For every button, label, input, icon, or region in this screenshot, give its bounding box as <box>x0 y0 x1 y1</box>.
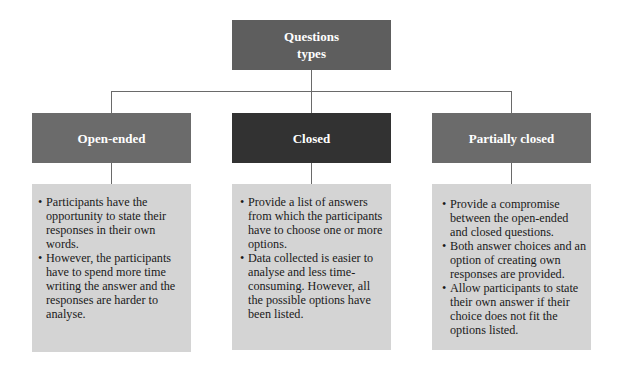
bullet-item: However, the participants have to spend … <box>38 251 187 321</box>
connector-right-down <box>511 91 512 113</box>
bullet-item: Allow participants to state their own an… <box>442 281 587 337</box>
category-label: Partially closed <box>469 130 555 147</box>
connector-left-down <box>111 91 112 113</box>
connector-left-content <box>111 163 112 184</box>
category-header-closed: Closed <box>232 113 391 163</box>
root-title-line1: Questions <box>284 28 339 45</box>
content-partially-closed: Provide a compromise between the open-en… <box>432 184 591 350</box>
category-label: Closed <box>293 130 331 147</box>
connector-horizontal <box>111 91 512 92</box>
bullet-item: Provide a compromise between the open-en… <box>442 197 587 239</box>
bullet-list: Provide a compromise between the open-en… <box>442 197 587 337</box>
root-title-line2: types <box>284 45 339 62</box>
connector-center-content <box>311 163 312 184</box>
bullet-item: Both answer choices and an option of cre… <box>442 239 587 281</box>
category-header-open-ended: Open-ended <box>32 113 191 163</box>
content-open-ended: Participants have the opportunity to sta… <box>32 184 191 352</box>
root-node: Questions types <box>232 20 391 70</box>
category-label: Open-ended <box>78 130 146 147</box>
bullet-list: Provide a list of answers from which the… <box>240 195 387 321</box>
category-header-partially-closed: Partially closed <box>432 113 591 163</box>
connector-right-content <box>511 163 512 184</box>
bullet-item: Participants have the opportunity to sta… <box>38 195 187 251</box>
bullet-item: Data collected is easier to analyse and … <box>240 251 387 321</box>
bullet-list: Participants have the opportunity to sta… <box>38 195 187 321</box>
bullet-item: Provide a list of answers from which the… <box>240 195 387 251</box>
content-closed: Provide a list of answers from which the… <box>232 184 391 350</box>
